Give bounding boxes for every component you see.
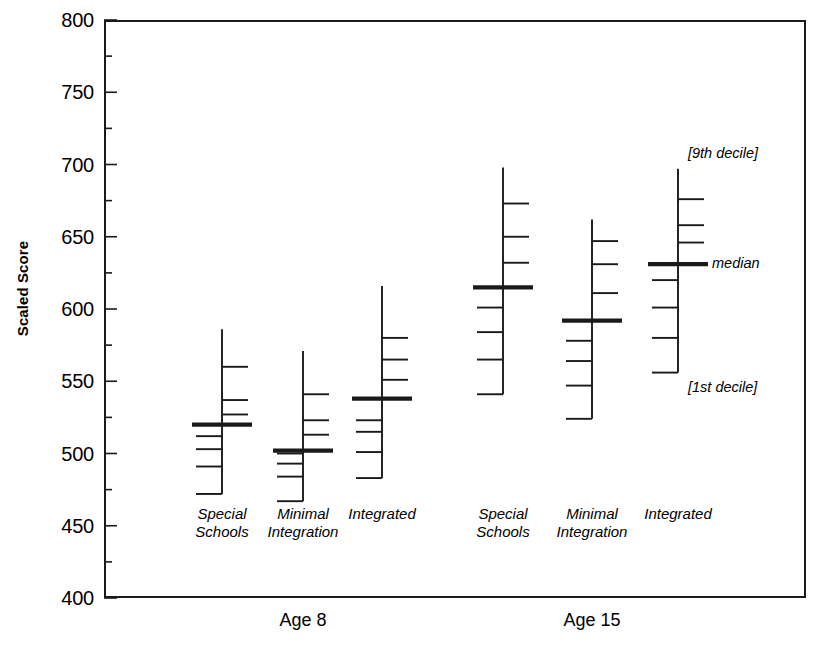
age-label-0: Age 8 [279, 610, 326, 631]
annotation-9th-decile: [9th decile] [688, 145, 758, 161]
y-tick-label-450: 450 [34, 514, 94, 537]
y-tick-label-550: 550 [34, 370, 94, 393]
y-tick-label-750: 750 [34, 81, 94, 104]
group-label-0: Special Schools [195, 505, 248, 542]
y-axis-tick-labels: 800750700650600550500450400 [32, 0, 94, 646]
group-label-5: Integrated [644, 505, 712, 523]
y-tick-label-700: 700 [34, 153, 94, 176]
y-tick-label-600: 600 [34, 298, 94, 321]
annotation-1st-decile: [1st decile] [688, 379, 757, 395]
annotation-median: median [712, 255, 760, 271]
group-label-2: Integrated [348, 505, 416, 523]
group-label-4: Minimal Integration [557, 505, 628, 542]
y-tick-label-400: 400 [34, 587, 94, 610]
age-label-1: Age 15 [563, 610, 620, 631]
y-tick-label-650: 650 [34, 225, 94, 248]
y-tick-label-800: 800 [34, 9, 94, 32]
group-label-1: Minimal Integration [268, 505, 339, 542]
y-axis-title: Scaled Score [14, 229, 31, 349]
y-tick-label-500: 500 [34, 442, 94, 465]
chart-figure: Scaled Score 800750700650600550500450400… [0, 0, 826, 646]
group-label-3: Special Schools [476, 505, 529, 542]
